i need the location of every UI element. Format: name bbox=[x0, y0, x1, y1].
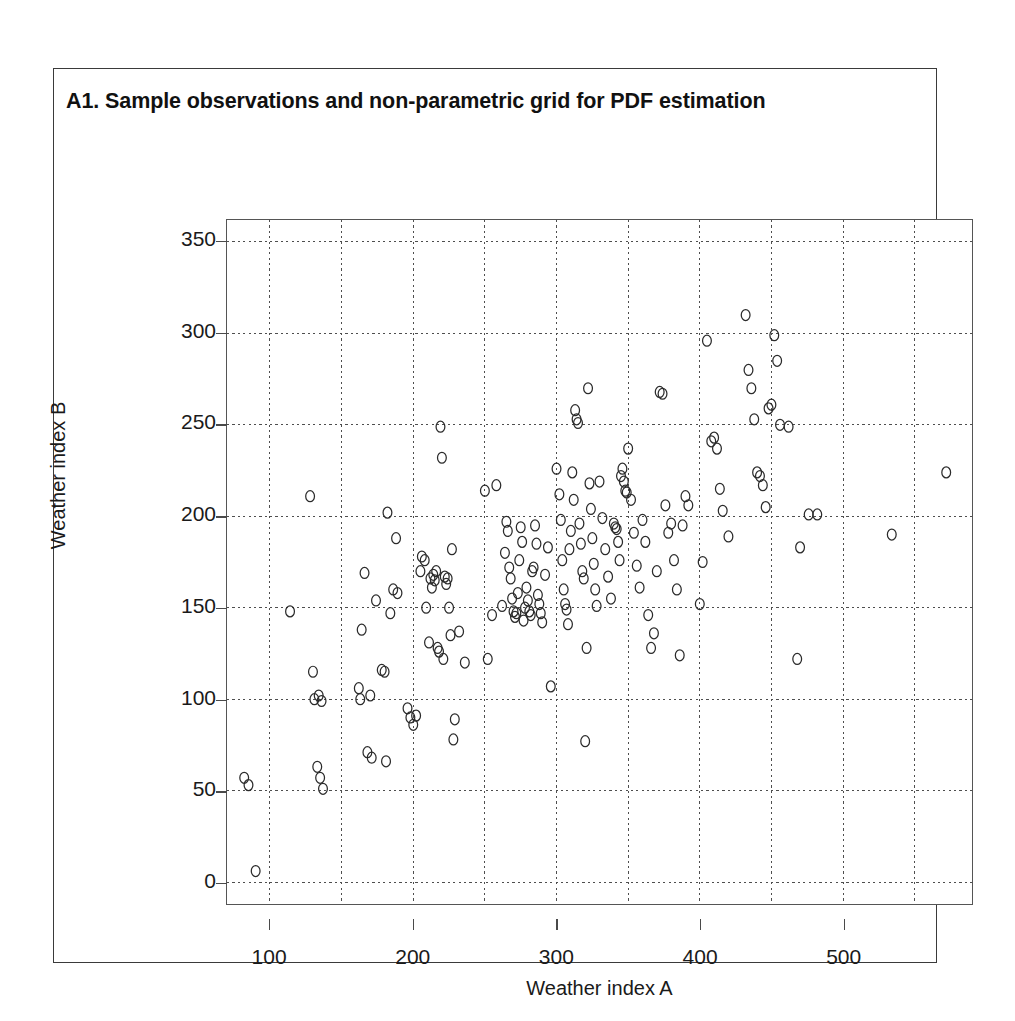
scatter-point bbox=[501, 547, 510, 558]
scatter-point bbox=[354, 683, 363, 694]
scatter-point bbox=[942, 467, 951, 478]
scatter-point bbox=[698, 557, 707, 568]
scatter-point bbox=[522, 582, 531, 593]
scatter-point bbox=[565, 544, 574, 555]
scatter-point bbox=[632, 560, 641, 571]
scatter-point bbox=[438, 452, 447, 463]
scatter-point bbox=[615, 555, 624, 566]
scatter-point bbox=[516, 522, 525, 533]
scatter-point bbox=[445, 602, 454, 613]
scatter-point bbox=[601, 544, 610, 555]
scatter-point bbox=[435, 646, 444, 657]
scatter-point bbox=[784, 421, 793, 432]
scatter-point bbox=[576, 538, 585, 549]
y-tick-label: 300 bbox=[181, 319, 216, 343]
scatter-point bbox=[552, 463, 561, 474]
scatter-point bbox=[564, 619, 573, 630]
scatter-point bbox=[309, 666, 318, 677]
scatter-point bbox=[887, 529, 896, 540]
scatter-point bbox=[595, 476, 604, 487]
scatter-point bbox=[667, 518, 676, 529]
scatter-point bbox=[724, 531, 733, 542]
scatter-point bbox=[747, 383, 756, 394]
scatter-point bbox=[518, 536, 527, 547]
scatter-point bbox=[587, 503, 596, 514]
x-axis-title: Weather index A bbox=[226, 977, 973, 1000]
scatter-point bbox=[425, 637, 434, 648]
scatter-point bbox=[575, 518, 584, 529]
scatter-point bbox=[652, 566, 661, 577]
scatter-point bbox=[450, 714, 459, 725]
scatter-point bbox=[515, 555, 524, 566]
y-tick-mark bbox=[216, 791, 227, 792]
y-tick-mark bbox=[216, 241, 227, 242]
y-axis-title: Weather index B bbox=[47, 276, 70, 676]
scatter-point bbox=[416, 566, 425, 577]
scatter-point bbox=[650, 628, 659, 639]
y-tick-label: 200 bbox=[181, 502, 216, 526]
scatter-point bbox=[412, 710, 421, 721]
x-tick-mark bbox=[844, 919, 845, 930]
y-tick-label: 0 bbox=[204, 869, 216, 893]
scatter-point bbox=[661, 500, 670, 511]
scatter-point bbox=[813, 509, 822, 520]
x-tick-label: 300 bbox=[539, 945, 574, 969]
scatter-point bbox=[449, 734, 458, 745]
y-tick-mark bbox=[216, 516, 227, 517]
scatter-points-layer bbox=[227, 220, 972, 904]
scatter-point bbox=[658, 388, 667, 399]
scatter-point bbox=[776, 419, 785, 430]
scatter-point bbox=[532, 538, 541, 549]
scatter-point bbox=[392, 533, 401, 544]
scatter-point bbox=[741, 310, 750, 321]
scatter-point bbox=[718, 505, 727, 516]
scatter-point bbox=[506, 573, 515, 584]
scatter-point bbox=[531, 520, 540, 531]
scatter-point bbox=[460, 657, 469, 668]
scatter-point bbox=[492, 480, 501, 491]
y-tick-label: 50 bbox=[193, 777, 216, 801]
scatter-point bbox=[251, 866, 260, 877]
scatter-point bbox=[644, 610, 653, 621]
scatter-point bbox=[638, 514, 647, 525]
x-tick-label: 100 bbox=[252, 945, 287, 969]
y-tick-mark bbox=[216, 333, 227, 334]
scatter-point bbox=[505, 562, 514, 573]
y-tick-label: 100 bbox=[181, 686, 216, 710]
scatter-point bbox=[604, 571, 613, 582]
y-tick-mark bbox=[216, 424, 227, 425]
scatter-point bbox=[566, 525, 575, 536]
scatter-point bbox=[744, 364, 753, 375]
scatter-point bbox=[436, 421, 445, 432]
scatter-point bbox=[286, 606, 295, 617]
scatter-point bbox=[584, 383, 593, 394]
scatter-point bbox=[383, 507, 392, 518]
scatter-point bbox=[356, 694, 365, 705]
scatter-point bbox=[713, 443, 722, 454]
scatter-point bbox=[498, 600, 507, 611]
scatter-point bbox=[483, 653, 492, 664]
scatter-point bbox=[591, 584, 600, 595]
scatter-point bbox=[578, 566, 587, 577]
scatter-point bbox=[589, 558, 598, 569]
scatter-point bbox=[585, 478, 594, 489]
scatter-point bbox=[796, 542, 805, 553]
x-tick-mark bbox=[700, 919, 701, 930]
scatter-point bbox=[455, 626, 464, 637]
scatter-point bbox=[607, 593, 616, 604]
scatter-point bbox=[758, 480, 767, 491]
scatter-point bbox=[574, 418, 583, 429]
scatter-point bbox=[670, 555, 679, 566]
scatter-point bbox=[635, 582, 644, 593]
x-tick-mark bbox=[269, 919, 270, 930]
scatter-point bbox=[703, 335, 712, 346]
scatter-point bbox=[386, 608, 395, 619]
y-tick-label: 350 bbox=[181, 227, 216, 251]
scatter-point bbox=[624, 443, 633, 454]
scatter-point bbox=[675, 650, 684, 661]
scatter-point bbox=[569, 494, 578, 505]
y-tick-mark bbox=[216, 608, 227, 609]
scatter-point bbox=[804, 509, 813, 520]
scatter-point bbox=[614, 536, 623, 547]
scatter-point bbox=[555, 489, 564, 500]
